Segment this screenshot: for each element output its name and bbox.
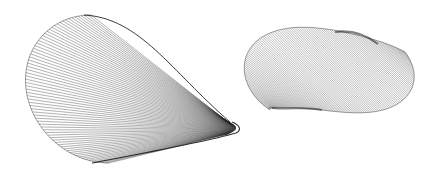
ruled-surfaces-illustration (0, 0, 448, 174)
left-ruled-surface (25, 15, 239, 163)
figure (0, 0, 448, 174)
right-ruled-surface (244, 27, 414, 113)
